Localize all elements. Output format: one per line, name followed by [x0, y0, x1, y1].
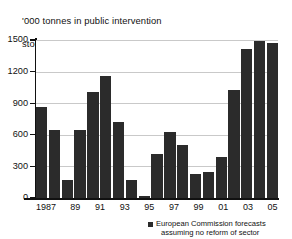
x-axis-tick-label: 91 [95, 201, 106, 215]
x-axis-tick-label: 95 [144, 201, 155, 215]
x-axis-tick-label-empty [156, 201, 167, 215]
x-axis-tick-label-empty [255, 201, 266, 215]
bar [254, 41, 265, 198]
x-axis-tick-label: 01 [218, 201, 229, 215]
y-axis-tick [30, 71, 36, 72]
y-axis-tick-label: 1200 [0, 67, 28, 76]
legend-swatch-icon [148, 222, 153, 227]
x-axis-tick-label-empty [132, 201, 143, 215]
x-axis-labels: 1987899193959799010305 [36, 201, 278, 215]
bar [126, 180, 137, 198]
x-axis-tick-label-empty [82, 201, 93, 215]
legend-item: European Commission forecasts [148, 219, 288, 228]
bar [241, 49, 252, 198]
x-axis-tick-label: 93 [119, 201, 130, 215]
y-axis-tick-label: 300 [0, 162, 28, 171]
x-axis-tick-label: 97 [169, 201, 180, 215]
y-axis-tick-label: 900 [0, 99, 28, 108]
y-axis-tick [30, 134, 36, 135]
y-axis-tick-label: 600 [0, 130, 28, 139]
y-axis-labels: 030060090012001500 [0, 0, 30, 239]
bar [164, 132, 175, 198]
x-axis-tick-label-empty [181, 201, 192, 215]
y-axis-tick [30, 197, 36, 198]
bar-chart: '000 tonnes in public intervention stock… [0, 0, 292, 239]
x-axis-tick-label-empty [206, 201, 217, 215]
bar [228, 90, 239, 198]
x-axis-tick-label: 99 [193, 201, 204, 215]
x-axis-tick-label: 89 [70, 201, 81, 215]
y-axis-tick-label: 1500 [0, 35, 28, 44]
bar [49, 130, 60, 198]
y-axis-tick [30, 39, 36, 40]
bar [139, 196, 150, 198]
bar [74, 130, 85, 198]
x-axis-line [24, 198, 279, 200]
bar [267, 43, 278, 198]
x-axis-tick-label-empty [230, 201, 241, 215]
x-axis-tick-label: 03 [243, 201, 254, 215]
bar [190, 174, 201, 198]
x-axis-tick-label-empty [107, 201, 118, 215]
bar [113, 122, 124, 198]
x-axis-tick-label: 05 [267, 201, 278, 215]
legend: European Commission forecasts assuming n… [148, 219, 288, 237]
y-axis-tick [30, 103, 36, 104]
bar [177, 145, 188, 198]
x-axis-tick-label: 1987 [36, 201, 56, 215]
bar [100, 76, 111, 198]
bar [87, 92, 98, 198]
bar [151, 154, 162, 198]
plot-area [36, 40, 278, 198]
y-axis-tick [30, 166, 36, 167]
bar [36, 107, 47, 198]
legend-label-line2: assuming no reform of sector [161, 228, 288, 237]
chart-title-line1: '000 tonnes in public intervention [22, 15, 162, 26]
x-axis-tick-label-empty [58, 201, 69, 215]
legend-label-line1: European Commission forecasts [156, 219, 266, 228]
bar [203, 172, 214, 198]
bar-series [36, 40, 278, 198]
bar [216, 157, 227, 198]
bar [62, 180, 73, 198]
